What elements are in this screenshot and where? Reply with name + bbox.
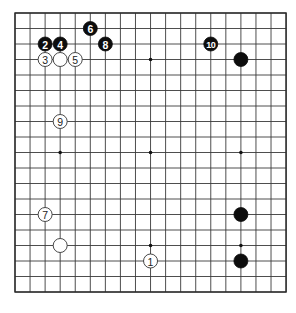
black-stone-move-2: 2 — [38, 37, 52, 51]
black-stone — [234, 254, 248, 268]
white-stone-icon — [53, 239, 67, 253]
star-point — [149, 58, 153, 62]
move-number: 8 — [102, 39, 108, 51]
move-number: 5 — [72, 54, 78, 66]
white-stone-move-5: 5 — [68, 53, 82, 67]
black-stone-move-4: 4 — [53, 37, 67, 51]
star-point — [239, 244, 243, 248]
white-stone-move-9: 9 — [53, 115, 67, 129]
move-number: 1 — [148, 256, 154, 268]
go-board-diagram: 12345678910 — [0, 0, 296, 313]
black-stone-icon — [234, 208, 248, 222]
black-stone-move-8: 8 — [98, 37, 112, 51]
star-point — [58, 151, 62, 155]
black-stone-move-6: 6 — [83, 22, 97, 36]
white-stone — [53, 239, 67, 253]
stones-layer: 12345678910 — [38, 22, 248, 269]
white-stone-move-3: 3 — [38, 53, 52, 67]
move-number: 2 — [42, 39, 48, 51]
move-number: 6 — [87, 23, 93, 35]
move-number: 9 — [57, 116, 63, 128]
black-stone — [234, 53, 248, 67]
move-number: 4 — [57, 39, 63, 51]
black-stone-icon — [234, 254, 248, 268]
black-stone — [234, 208, 248, 222]
white-stone-move-1: 1 — [144, 254, 158, 268]
black-stone-icon — [234, 53, 248, 67]
move-number: 10 — [206, 40, 215, 50]
white-stone-icon — [53, 53, 67, 67]
go-board[interactable]: 12345678910 — [0, 0, 296, 313]
star-point — [149, 244, 153, 248]
white-stone — [53, 53, 67, 67]
move-number: 7 — [42, 209, 48, 221]
move-number: 3 — [42, 54, 48, 66]
star-point — [149, 151, 153, 155]
white-stone-move-7: 7 — [38, 208, 52, 222]
black-stone-move-10: 10 — [204, 37, 218, 51]
star-point — [239, 151, 243, 155]
